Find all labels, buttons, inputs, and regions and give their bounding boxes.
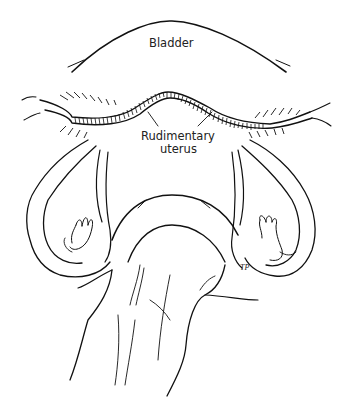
- central-arches: [112, 195, 238, 262]
- bowel: [70, 265, 258, 396]
- anatomical-illustration: Bladder Rudimentary uterus TP: [0, 0, 342, 413]
- bladder-label: Bladder: [149, 37, 194, 50]
- left-adnexa: [27, 140, 111, 277]
- illustration-drawing: [0, 0, 342, 413]
- artist-signature: TP: [240, 263, 249, 272]
- uterus-label-line2: uterus: [160, 143, 197, 156]
- right-adnexa: [232, 140, 316, 276]
